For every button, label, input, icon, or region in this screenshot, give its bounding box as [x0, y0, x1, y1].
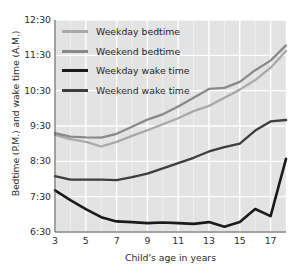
y-tick-label: 9:30: [11, 121, 51, 130]
legend-swatch: [62, 69, 88, 72]
legend-label: Weekday bedtime: [96, 26, 180, 37]
legend-label: Weekend wake time: [96, 85, 190, 96]
legend-swatch: [62, 50, 88, 53]
y-tick-label: 11:30: [11, 50, 51, 59]
x-tick-label: 15: [228, 235, 252, 246]
x-tick-label: 5: [74, 235, 98, 246]
y-tick-label: 12:30: [11, 15, 51, 24]
x-tick-label: 17: [259, 235, 283, 246]
legend-swatch: [62, 89, 88, 92]
y-tick-label: 10:30: [11, 86, 51, 95]
x-tick-label: 11: [166, 235, 190, 246]
x-tick-label: 9: [135, 235, 159, 246]
x-tick-label: 3: [43, 235, 67, 246]
y-tick-label: 7:30: [11, 192, 51, 201]
x-axis-title: Child's age in years: [55, 252, 286, 263]
chart-figure: Bedtime (P.M.) and wake time (A.M.) 12:3…: [0, 0, 292, 273]
legend-swatch: [62, 30, 88, 33]
legend-label: Weekday wake time: [96, 65, 190, 76]
legend-label: Weekend bedtime: [96, 46, 180, 57]
x-tick-label: 7: [105, 235, 129, 246]
y-axis-tick-labels: 12:3011:3010:309:308:307:306:30: [5, 0, 51, 273]
x-tick-label: 13: [197, 235, 221, 246]
y-tick-label: 8:30: [11, 156, 51, 165]
